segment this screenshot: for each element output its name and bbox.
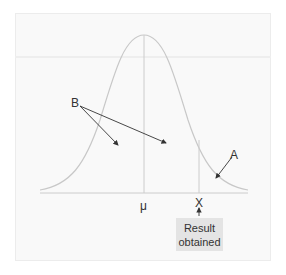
normal-curve-diagram	[0, 0, 286, 275]
label-x: X	[195, 197, 203, 209]
result-line2: obtained	[176, 235, 223, 249]
b-arrow-left	[80, 106, 118, 145]
result-line1: Result	[176, 221, 223, 235]
b-arrow-right	[80, 106, 166, 143]
result-obtained-box: Result obtained	[176, 218, 223, 251]
label-a: A	[230, 149, 238, 161]
label-b: B	[71, 97, 79, 109]
label-mean: μ	[140, 200, 147, 212]
